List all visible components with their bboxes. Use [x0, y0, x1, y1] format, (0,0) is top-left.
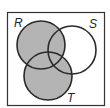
label-s: S: [89, 17, 97, 31]
label-r: R: [14, 16, 23, 30]
venn-diagram: R S T: [0, 0, 110, 108]
